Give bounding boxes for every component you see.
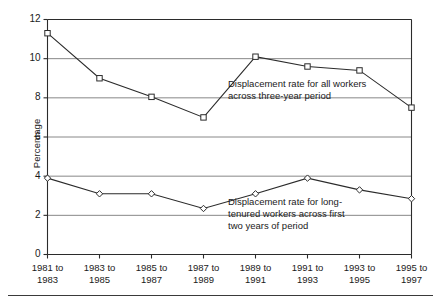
y-tick-marks bbox=[44, 20, 48, 255]
marker-s0-p0 bbox=[45, 31, 50, 36]
line-chart-plot bbox=[0, 0, 441, 303]
marker-s0-p1 bbox=[97, 76, 102, 81]
lower-series-annotation: Displacement rate for long-tenured worke… bbox=[228, 196, 345, 231]
marker-s1-p1 bbox=[96, 191, 102, 197]
x-tick-label-7: 1995 to1997 bbox=[379, 262, 441, 287]
y-tick-label-10: 10 bbox=[15, 52, 41, 63]
marker-s0-p4 bbox=[253, 54, 258, 59]
marker-s1-p7 bbox=[408, 195, 414, 201]
marker-s0-p7 bbox=[409, 105, 414, 110]
marker-s0-p5 bbox=[305, 64, 310, 69]
data-series-layer bbox=[44, 31, 414, 212]
x-tick-marks bbox=[48, 255, 412, 259]
marker-s0-p6 bbox=[357, 68, 362, 73]
marker-s1-p6 bbox=[356, 187, 362, 193]
upper-series-annotation: Displacement rate for all workersacross … bbox=[228, 78, 366, 102]
marker-s0-p2 bbox=[149, 94, 154, 99]
y-tick-label-12: 12 bbox=[15, 13, 41, 24]
marker-s1-p3 bbox=[200, 205, 206, 211]
y-tick-label-0: 0 bbox=[15, 248, 41, 259]
y-tick-label-2: 2 bbox=[15, 209, 41, 220]
y-tick-label-4: 4 bbox=[15, 170, 41, 181]
y-tick-label-6: 6 bbox=[15, 131, 41, 142]
bottom-divider-rule bbox=[8, 295, 433, 296]
y-tick-label-8: 8 bbox=[15, 91, 41, 102]
chart-figure: Percentage 024681012 1981 to19831983 to1… bbox=[0, 0, 441, 303]
marker-s0-p3 bbox=[201, 115, 206, 120]
marker-s1-p2 bbox=[148, 191, 154, 197]
